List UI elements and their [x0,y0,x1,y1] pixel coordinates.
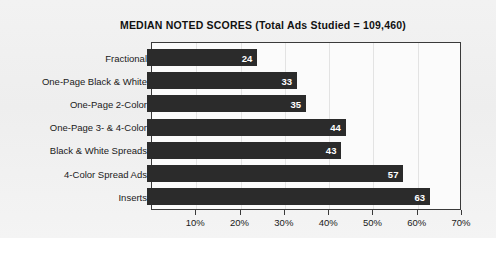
bar: 24 [147,49,257,66]
x-tick-label: 40% [319,217,338,228]
bar: 43 [147,142,341,159]
bar-value-label: 35 [290,98,301,109]
bar-row: Inserts63 [0,188,496,205]
bar: 63 [147,188,430,205]
bar: 35 [147,95,306,112]
x-tick [417,210,418,215]
bar-value-label: 24 [242,52,253,63]
bar: 33 [147,72,297,89]
x-tick [372,210,373,215]
bar: 44 [147,119,346,136]
bar-row: One-Page Black & White33 [0,72,496,89]
x-tick [461,210,462,215]
x-tick-label: 50% [363,217,382,228]
chart-page: MEDIAN NOTED SCORES (Total Ads Studied =… [0,0,496,253]
category-label: One-Page 2-Color [70,98,147,109]
category-label: 4-Color Spread Ads [64,168,147,179]
bar-value-label: 43 [326,145,337,156]
chart-title: MEDIAN NOTED SCORES (Total Ads Studied =… [0,19,496,31]
category-label: One-Page Black & White [42,75,147,86]
x-tick-label: 10% [186,217,205,228]
category-label: One-Page 3- & 4-Color [50,122,147,133]
x-tick-label: 20% [230,217,249,228]
bar-row: Black & White Spreads43 [0,142,496,159]
bar-row: Fractional24 [0,49,496,66]
x-tick [284,210,285,215]
x-tick-label: 70% [451,217,470,228]
x-tick [240,210,241,215]
bar-value-label: 63 [414,191,425,202]
bar-row: 4-Color Spread Ads57 [0,165,496,182]
x-tick [195,210,196,215]
bar-rows: Fractional24One-Page Black & White33One-… [0,42,496,210]
category-label: Fractional [105,52,147,63]
bar: 57 [147,165,403,182]
category-label: Inserts [118,191,147,202]
bar-row: One-Page 3- & 4-Color44 [0,119,496,136]
x-tick-label: 30% [274,217,293,228]
category-label: Black & White Spreads [50,145,147,156]
x-tick-label: 60% [407,217,426,228]
bar-row: One-Page 2-Color35 [0,95,496,112]
bar-value-label: 33 [282,75,293,86]
bar-value-label: 44 [330,122,341,133]
x-axis: 10%20%30%40%50%60%70% [151,210,461,236]
bar-value-label: 57 [388,168,399,179]
x-tick [328,210,329,215]
